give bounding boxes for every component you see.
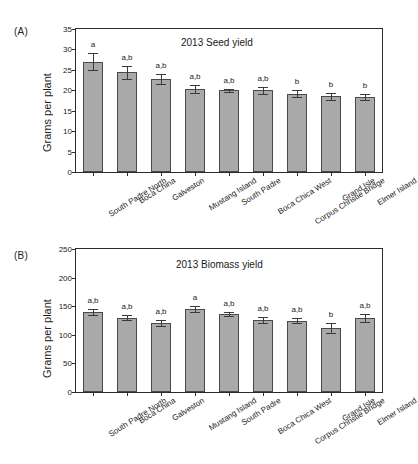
significance-letter: a,b <box>223 299 234 308</box>
error-bar-cap-lower <box>224 316 233 317</box>
error-bar-cap-upper <box>156 320 165 321</box>
bar-group: b <box>348 29 382 172</box>
error-bar-cap-upper <box>88 53 97 54</box>
bar <box>117 318 137 392</box>
bar-group: a,b <box>246 249 280 392</box>
error-bar-cap-upper <box>360 314 369 315</box>
significance-letter: b <box>295 77 299 86</box>
error-bar-cap-lower <box>258 94 267 95</box>
error-bar-cap-lower <box>88 70 97 71</box>
significance-letter: b <box>329 310 333 319</box>
error-bar-cap-lower <box>88 315 97 316</box>
bar-group: a <box>178 249 212 392</box>
error-bar-cap-lower <box>326 333 335 334</box>
significance-letter: a,b <box>121 302 132 311</box>
x-axis-tick-mark <box>331 172 332 176</box>
bar-group: b <box>314 249 348 392</box>
panel-b-letter: (B) <box>14 250 28 261</box>
bar-group: a,b <box>212 249 246 392</box>
error-bar-cap-upper <box>122 66 131 67</box>
bar-group: a,b <box>110 249 144 392</box>
error-bar-cap-upper <box>360 94 369 95</box>
x-axis-tick-mark <box>195 172 196 176</box>
x-axis-tick-mark <box>297 392 298 396</box>
error-bar-cap-lower <box>292 97 301 98</box>
bar <box>185 309 205 392</box>
bar <box>355 97 375 172</box>
error-bar-cap-lower <box>360 322 369 323</box>
x-axis-tick-mark <box>297 172 298 176</box>
panel-a-y-axis-title: Grams per plant <box>41 73 53 152</box>
x-axis-tick-mark <box>365 172 366 176</box>
x-axis-category-text: Galveston <box>170 396 205 423</box>
error-bar-cap-upper <box>88 309 97 310</box>
bar-group: a,b <box>144 29 178 172</box>
bar <box>185 89 205 172</box>
panel-b-plot-area: 2013 Biomass yield050100150200250a,bSout… <box>75 248 383 393</box>
significance-letter: a <box>91 40 95 49</box>
error-bar-cap-lower <box>190 312 199 313</box>
significance-letter: a <box>193 293 197 302</box>
error-bar-cap-upper <box>190 306 199 307</box>
bar-group: a,b <box>246 29 280 172</box>
significance-letter: a,b <box>291 305 302 314</box>
error-bar <box>365 314 366 322</box>
bar <box>287 321 307 393</box>
error-bar-cap-upper <box>292 90 301 91</box>
x-axis-tick-mark <box>93 172 94 176</box>
bar-group: a,b <box>76 249 110 392</box>
significance-letter: a,b <box>121 53 132 62</box>
x-axis-tick-mark <box>127 392 128 396</box>
x-axis-tick-mark <box>229 392 230 396</box>
error-bar-cap-lower <box>190 93 199 94</box>
error-bar <box>297 90 298 97</box>
bar-group: b <box>280 29 314 172</box>
significance-letter: b <box>363 81 367 90</box>
bar <box>83 62 103 172</box>
panel-b-y-axis-title: Grams per plant <box>41 299 53 378</box>
bar <box>219 314 239 392</box>
panel-b-biomass-yield: (B) Grams per plant 2013 Biomass yield05… <box>0 232 407 464</box>
error-bar-cap-upper <box>224 89 233 90</box>
significance-letter: b <box>329 80 333 89</box>
panel-a-plot-area: 2013 Seed yield05101520253035aSouth Padr… <box>75 28 383 173</box>
error-bar <box>263 87 264 94</box>
error-bar-cap-upper <box>292 318 301 319</box>
significance-letter: a,b <box>257 74 268 83</box>
bar-group: a,b <box>348 249 382 392</box>
bar-group: a,b <box>110 29 144 172</box>
x-axis-tick-mark <box>229 172 230 176</box>
significance-letter: a,b <box>155 307 166 316</box>
bar <box>151 79 171 172</box>
x-axis-tick-mark <box>161 172 162 176</box>
error-bar-cap-lower <box>122 320 131 321</box>
error-bar-cap-lower <box>156 84 165 85</box>
x-axis-tick-mark <box>93 392 94 396</box>
error-bar-cap-lower <box>122 79 131 80</box>
error-bar <box>195 85 196 92</box>
bar <box>117 72 137 172</box>
error-bar-cap-upper <box>258 87 267 88</box>
error-bar-cap-lower <box>292 323 301 324</box>
error-bar-cap-lower <box>258 323 267 324</box>
significance-letter: a,b <box>87 296 98 305</box>
x-axis-tick-mark <box>263 172 264 176</box>
bar <box>83 312 103 392</box>
x-axis-tick-mark <box>195 392 196 396</box>
bar <box>287 94 307 172</box>
x-axis-tick-mark <box>263 392 264 396</box>
error-bar <box>127 66 128 79</box>
error-bar-cap-upper <box>156 74 165 75</box>
error-bar <box>161 74 162 84</box>
bar-group: a,b <box>212 29 246 172</box>
significance-letter: a,b <box>257 304 268 313</box>
significance-letter: a,b <box>155 61 166 70</box>
x-axis-tick-mark <box>331 392 332 396</box>
bar <box>355 318 375 392</box>
panel-a-seed-yield: (A) Grams per plant 2013 Seed yield05101… <box>0 0 407 232</box>
bar <box>253 320 273 392</box>
error-bar-cap-lower <box>224 92 233 93</box>
significance-letter: a,b <box>189 72 200 81</box>
bar <box>321 328 341 392</box>
error-bar-cap-upper <box>326 93 335 94</box>
